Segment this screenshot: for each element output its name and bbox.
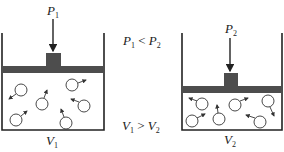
left-volume-label: V1 (46, 133, 58, 150)
right-pressure-label: P2 (224, 21, 237, 38)
molecule (196, 98, 208, 110)
right-volume-label: V2 (224, 132, 236, 149)
molecule (262, 95, 274, 107)
molecule (60, 117, 72, 129)
molecule (15, 84, 27, 96)
molecule (186, 115, 198, 127)
right-piston-plate (183, 86, 281, 93)
molecule (66, 79, 78, 91)
right-cylinder: P2 V2 (182, 21, 282, 149)
left-molecules (9, 79, 90, 129)
molecule (78, 100, 90, 112)
left-cylinder: P1 V1 (2, 3, 104, 150)
pressure-relation: P1 < P2 (122, 33, 161, 50)
molecule (229, 99, 241, 111)
pressure-volume-diagram: P1 V1 P1 < P2 V1 > V2 P2 V2 (0, 0, 284, 152)
molecule (254, 116, 266, 128)
right-piston-knob (224, 73, 238, 87)
left-pressure-label: P1 (46, 3, 59, 20)
molecule (36, 98, 48, 110)
volume-relation: V1 > V2 (122, 118, 160, 135)
left-piston-knob (46, 53, 61, 67)
left-piston-plate (3, 66, 103, 73)
molecule (10, 114, 22, 126)
right-molecules (186, 95, 274, 128)
molecule (213, 113, 225, 125)
